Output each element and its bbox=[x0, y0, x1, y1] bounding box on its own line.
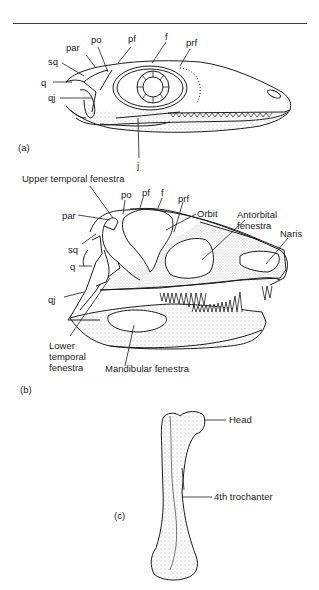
label-b-antorbital-1: Antorbital bbox=[237, 209, 277, 220]
panel-label-a: (a) bbox=[18, 142, 30, 153]
label-b-antorbital-2: fenestra bbox=[237, 220, 271, 231]
label-a-po: po bbox=[91, 34, 102, 45]
label-b-lower-temporal-1: Lower bbox=[49, 340, 75, 351]
skull-a bbox=[66, 61, 291, 133]
label-c-head: Head bbox=[229, 414, 252, 425]
label-b-prf: prf bbox=[178, 193, 189, 204]
label-b-q: q bbox=[70, 261, 75, 272]
label-c-4th-trochanter: 4th trochanter bbox=[214, 491, 273, 502]
panel-label-c: (c) bbox=[114, 510, 125, 521]
label-a-q: q bbox=[41, 77, 46, 88]
label-a-qj: qj bbox=[48, 92, 55, 103]
label-b-par: par bbox=[62, 210, 76, 221]
label-b-lower-temporal-2: temporal bbox=[49, 351, 86, 362]
label-a-j: j bbox=[137, 160, 139, 171]
label-a-prf: prf bbox=[186, 37, 197, 48]
label-a-sq: sq bbox=[48, 56, 58, 67]
label-a-pf: pf bbox=[128, 33, 136, 44]
label-a-par: par bbox=[66, 42, 80, 53]
label-b-sq: sq bbox=[68, 244, 78, 255]
label-b-upper-temporal-fenestra: Upper temporal fenestra bbox=[22, 173, 124, 184]
label-b-naris: Naris bbox=[280, 228, 302, 239]
label-b-po: po bbox=[121, 189, 132, 200]
label-b-lower-temporal-3: fenestra bbox=[49, 362, 83, 373]
label-b-mandibular-fenestra: Mandibular fenestra bbox=[105, 363, 189, 374]
label-b-qj: qj bbox=[48, 294, 55, 305]
panel-label-b: (b) bbox=[20, 384, 32, 395]
label-b-pf: pf bbox=[142, 187, 150, 198]
femur bbox=[151, 412, 205, 581]
label-b-f: f bbox=[161, 187, 164, 198]
label-b-orbit: Orbit bbox=[197, 208, 218, 219]
label-a-f: f bbox=[165, 31, 168, 42]
